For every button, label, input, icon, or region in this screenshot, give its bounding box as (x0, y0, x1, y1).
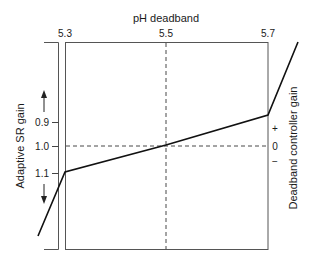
right-axis-label: Deadband controller gain (287, 87, 299, 210)
y-tick-1.0: 1.0 (35, 141, 49, 152)
arrow-up-icon (41, 90, 47, 112)
diagram-canvas: pH deadband 5.3 5.5 5.7 0.9 1.0 1.1 Adap… (0, 0, 314, 264)
x-tick-5.7: 5.7 (261, 28, 275, 39)
sign-minus: − (272, 156, 278, 167)
ph-deadband-diagram: pH deadband 5.3 5.5 5.7 0.9 1.0 1.1 Adap… (0, 0, 314, 264)
left-axis-label: Adaptive SR gain (14, 104, 26, 189)
y-tick-0.9: 0.9 (35, 117, 49, 128)
arrow-down-icon (41, 184, 47, 204)
y-tick-1.1: 1.1 (35, 168, 49, 179)
sign-plus: + (272, 123, 278, 134)
chart-title: pH deadband (133, 12, 199, 24)
x-tick-5.3: 5.3 (58, 28, 72, 39)
x-tick-5.5: 5.5 (159, 28, 173, 39)
sign-zero: 0 (272, 141, 278, 152)
gain-curve (38, 42, 298, 236)
